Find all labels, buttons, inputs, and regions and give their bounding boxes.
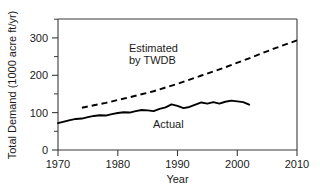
y-tick-label-200: 200 (30, 69, 48, 81)
series-line-estimated (82, 40, 297, 107)
y-axis-title: Total Demand (1000 acre ft/yr) (6, 11, 18, 160)
x-axis-ticks (58, 150, 297, 156)
y-tick-labels: 0 100 200 300 (30, 32, 48, 156)
plot-frame (58, 19, 297, 150)
x-tick-labels: 1970 1980 1990 2000 2010 (46, 158, 309, 170)
chart-figure: 0 100 200 300 1970 1980 1990 2000 2010 Y… (0, 0, 320, 190)
y-tick-label-0: 0 (42, 144, 48, 156)
x-tick-label-1970: 1970 (46, 158, 70, 170)
x-tick-label-1990: 1990 (165, 158, 189, 170)
x-tick-label-2010: 2010 (285, 158, 309, 170)
annotation-estimated-line1: Estimated (129, 42, 178, 54)
line-chart: 0 100 200 300 1970 1980 1990 2000 2010 Y… (0, 0, 320, 190)
y-tick-label-100: 100 (30, 107, 48, 119)
x-tick-label-1980: 1980 (106, 158, 130, 170)
y-tick-label-300: 300 (30, 32, 48, 44)
x-tick-label-2000: 2000 (225, 158, 249, 170)
x-axis-title: Year (166, 173, 189, 185)
annotation-estimated-line2: by TWDB (129, 54, 176, 66)
annotation-actual: Actual (153, 118, 184, 130)
